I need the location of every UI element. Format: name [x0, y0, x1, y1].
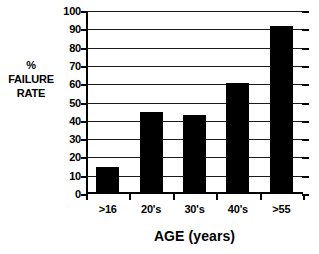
y-axis-tick-mark: [81, 66, 87, 68]
y-axis-tick-mark: [81, 139, 87, 141]
bar: [183, 115, 206, 194]
y-axis-tick-label: 80: [48, 42, 81, 53]
y-axis-tick-mark-right: [302, 66, 309, 68]
y-axis-tick-label: 40: [48, 115, 81, 126]
y-axis-tick-label: 20: [48, 152, 81, 163]
y-axis-tick-mark: [81, 48, 87, 50]
x-axis-tick-mark: [173, 194, 175, 200]
y-axis-tick-mark-right: [302, 11, 309, 13]
y-axis-tick-label: 60: [48, 79, 81, 90]
bar-chart: % FAILURE RATE 0102030405060708090100 >1…: [0, 0, 319, 254]
y-axis-tick-labels: 0102030405060708090100: [48, 0, 81, 254]
y-axis-tick-mark-right: [302, 29, 309, 31]
x-axis-tick-mark: [303, 194, 305, 200]
y-axis-tick-label: 50: [48, 97, 81, 108]
y-axis-tick-mark: [81, 29, 87, 31]
y-axis-tick-mark-right: [302, 84, 309, 86]
y-axis-tick-mark-right: [302, 121, 309, 123]
x-axis-tick-mark: [129, 194, 131, 200]
y-axis-tick-mark-right: [302, 139, 309, 141]
x-axis-tick-mark: [216, 194, 218, 200]
x-axis-tick-labels: >1620's30's40's>55: [86, 203, 303, 219]
y-axis-tick-mark-right: [302, 103, 309, 105]
y-axis-tick-mark-right: [302, 176, 309, 178]
plot-area: [86, 11, 303, 194]
bar: [226, 83, 249, 194]
y-axis-tick-mark-right: [302, 157, 309, 159]
x-axis-tick-label: 20's: [141, 203, 161, 216]
y-axis-tick-mark: [81, 121, 87, 123]
y-axis-tick-mark: [81, 11, 87, 13]
y-axis-tick-label: 10: [48, 170, 81, 181]
x-axis-tick-label: 30's: [184, 203, 204, 216]
y-axis-tick-mark: [81, 157, 87, 159]
y-axis-tick-label: 90: [48, 24, 81, 35]
y-axis-tick-mark-right: [302, 48, 309, 50]
x-axis-title: AGE (years): [86, 228, 303, 244]
y-axis-tick-mark: [81, 103, 87, 105]
y-axis-tick-mark: [81, 84, 87, 86]
y-axis-tick-mark: [81, 176, 87, 178]
y-axis-tick-label: 30: [48, 134, 81, 145]
x-axis-tick-label: 40's: [228, 203, 248, 216]
x-axis-tick-mark: [260, 194, 262, 200]
gridline: [86, 11, 303, 12]
x-axis-tick-label: >55: [272, 203, 290, 216]
y-axis-tick-label: 70: [48, 60, 81, 71]
x-axis-tick-label: >16: [99, 203, 117, 216]
x-axis-ticks: [86, 194, 303, 201]
bar: [96, 167, 119, 194]
bar: [140, 112, 163, 194]
bar: [270, 26, 293, 194]
x-axis-tick-mark: [86, 194, 88, 200]
y-axis-tick-label: 100: [48, 6, 81, 17]
y-axis-tick-label: 0: [48, 189, 81, 200]
